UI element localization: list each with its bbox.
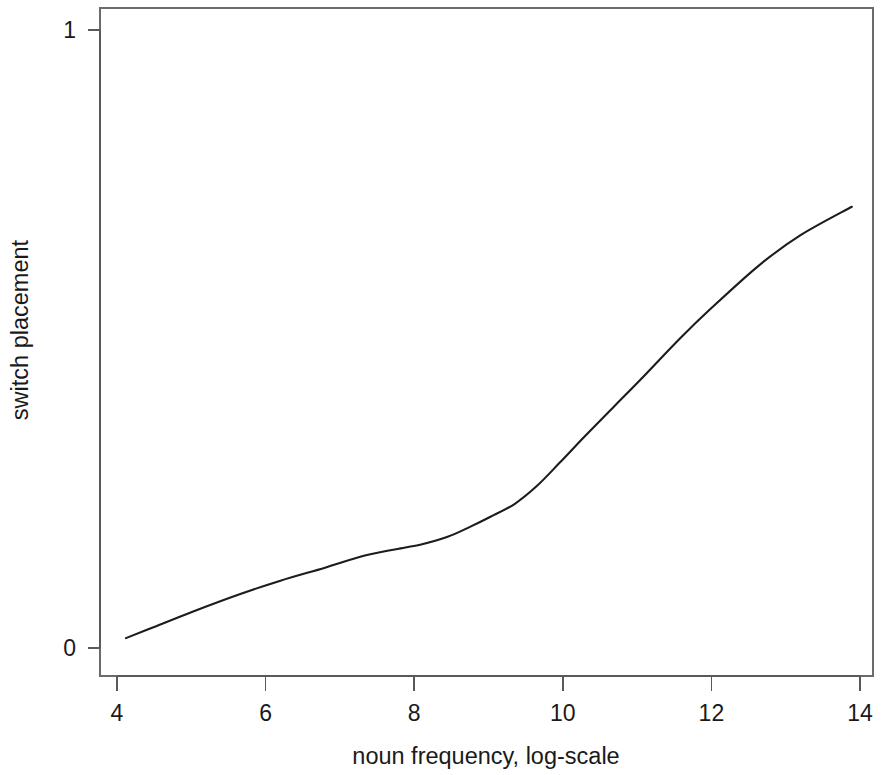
line-chart: 1 0 switch placement 4 6 8 10 12 14 noun… [0,0,882,775]
y-tick-label-1: 1 [63,17,76,43]
x-tick-label-8: 8 [408,700,421,726]
chart-figure: 1 0 switch placement 4 6 8 10 12 14 noun… [0,0,882,775]
x-tick-label-6: 6 [259,700,272,726]
x-tick-label-14: 14 [847,700,873,726]
x-axis-title: noun frequency, log-scale [352,743,619,769]
x-tick-label-10: 10 [550,700,576,726]
x-tick-label-12: 12 [699,700,725,726]
y-axis-title: switch placement [7,239,33,420]
figure-background [0,0,882,775]
x-tick-label-4: 4 [111,700,124,726]
y-tick-label-0: 0 [63,635,76,661]
